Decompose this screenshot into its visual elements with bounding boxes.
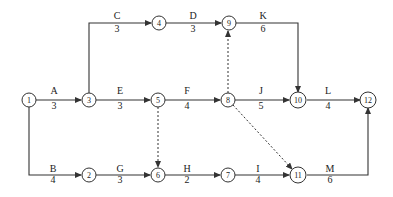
activity-duration: 4 <box>185 100 190 111</box>
activity-duration: 5 <box>259 100 264 111</box>
node-number: 11 <box>294 171 302 180</box>
activity-arrows <box>29 23 368 175</box>
node-number: 4 <box>157 19 161 28</box>
node-number: 9 <box>227 19 231 28</box>
activity-name: A <box>50 85 58 96</box>
activity-duration: 4 <box>51 174 56 185</box>
node-1: 1 <box>22 93 36 107</box>
arrow-M <box>307 108 368 175</box>
activity-duration: 3 <box>118 174 123 185</box>
activity-duration: 4 <box>326 100 331 111</box>
activity-label-B: B4 <box>50 163 57 185</box>
activity-duration: 3 <box>118 100 123 111</box>
activity-label-D: D3 <box>189 10 196 34</box>
activity-label-L: L4 <box>325 85 331 111</box>
activity-name: F <box>184 85 190 96</box>
activity-name: C <box>114 10 121 21</box>
node-number: 8 <box>226 96 230 105</box>
node-number: 12 <box>364 96 372 105</box>
activity-duration: 3 <box>52 100 57 111</box>
node-7: 7 <box>221 168 235 182</box>
node-10: 10 <box>290 92 306 108</box>
activity-label-E: E3 <box>117 85 123 111</box>
node-number: 1 <box>27 96 31 105</box>
node-2: 2 <box>82 168 96 182</box>
activity-duration: 4 <box>256 174 261 185</box>
activity-label-H: H2 <box>183 163 190 185</box>
activity-label-M: M6 <box>326 163 335 185</box>
activity-duration: 3 <box>191 23 196 34</box>
activity-name: I <box>256 163 259 174</box>
node-number: 7 <box>226 171 230 180</box>
activity-name: L <box>325 85 331 96</box>
node-number: 6 <box>156 171 160 180</box>
activity-duration: 3 <box>115 23 120 34</box>
activity-duration: 6 <box>261 23 266 34</box>
node-11: 11 <box>290 167 306 183</box>
arrow-K <box>236 23 298 92</box>
activity-label-F: F4 <box>184 85 190 111</box>
arrow-C <box>89 23 151 93</box>
node-9: 9 <box>222 16 236 30</box>
dummy-8-11 <box>233 105 292 169</box>
network-diagram: 123456789101112 A3B4C3D3E3F4G3H2I4J5K6L4… <box>0 0 393 197</box>
activity-duration: 6 <box>328 174 333 185</box>
activity-label-G: G3 <box>116 163 123 185</box>
node-number: 10 <box>294 96 302 105</box>
node-number: 2 <box>87 171 91 180</box>
activity-duration: 2 <box>185 174 190 185</box>
node-6: 6 <box>151 168 165 182</box>
node-number: 5 <box>156 96 160 105</box>
activity-name: D <box>189 10 196 21</box>
activity-name: G <box>116 163 123 174</box>
activity-label-J: J5 <box>259 85 264 111</box>
node-8: 8 <box>221 93 235 107</box>
activity-label-I: I4 <box>256 163 261 185</box>
node-4: 4 <box>152 16 166 30</box>
activity-name: B <box>50 163 57 174</box>
activity-name: J <box>259 85 263 96</box>
node-3: 3 <box>82 93 96 107</box>
node-12: 12 <box>360 92 376 108</box>
activity-name: K <box>259 10 267 21</box>
activity-label-K: K6 <box>259 10 267 34</box>
node-5: 5 <box>151 93 165 107</box>
activity-name: M <box>326 163 335 174</box>
node-number: 3 <box>87 96 91 105</box>
activity-label-A: A3 <box>50 85 58 111</box>
activity-label-C: C3 <box>114 10 121 34</box>
activity-name: E <box>117 85 123 96</box>
activity-name: H <box>183 163 190 174</box>
